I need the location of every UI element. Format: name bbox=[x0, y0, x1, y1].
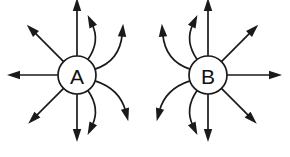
arrow-down-head bbox=[73, 129, 81, 142]
arrow-down-head bbox=[204, 129, 212, 142]
arrow-upper-left-shaft bbox=[34, 32, 63, 61]
arrow-curved-right-lower-shaft bbox=[95, 81, 126, 111]
arrow-right-head bbox=[269, 71, 282, 79]
arrow-curved-upper-right-head bbox=[88, 15, 97, 29]
arrow-upper-right-shaft bbox=[221, 32, 250, 61]
arrow-curved-left-lower-shaft bbox=[159, 81, 190, 111]
arrow-curved-lower-right-shaft bbox=[88, 91, 96, 126]
arrow-lower-left-shaft bbox=[36, 88, 64, 116]
arrow-curved-left-upper-head bbox=[159, 24, 167, 37]
arrow-curved-lower-left-shaft bbox=[190, 91, 198, 126]
arrow-curved-right-upper-shaft bbox=[95, 34, 122, 69]
arrow-up-head bbox=[204, 0, 212, 11]
arrow-lower-right-shaft bbox=[221, 88, 249, 116]
arrow-left-head bbox=[7, 71, 20, 79]
arrow-curved-upper-left-shaft bbox=[190, 24, 198, 59]
arrow-curved-upper-left-head bbox=[188, 15, 197, 29]
two-node-arrow-diagram: A B bbox=[0, 0, 290, 157]
node-label-b: B bbox=[201, 65, 215, 88]
arrow-curved-right-lower-head bbox=[121, 108, 129, 122]
arrow-curved-upper-right-shaft bbox=[88, 24, 96, 59]
arrow-curved-left-lower-head bbox=[156, 108, 164, 122]
node-group-b: B bbox=[156, 0, 282, 142]
node-label-a: A bbox=[70, 65, 84, 88]
arrow-curved-right-upper-head bbox=[118, 24, 126, 37]
arrow-up-head bbox=[73, 0, 81, 11]
arrow-curved-left-upper-shaft bbox=[163, 34, 190, 69]
arrow-curved-lower-left-head bbox=[188, 122, 197, 136]
node-group-a: A bbox=[7, 0, 129, 142]
arrow-curved-lower-right-head bbox=[88, 122, 97, 136]
